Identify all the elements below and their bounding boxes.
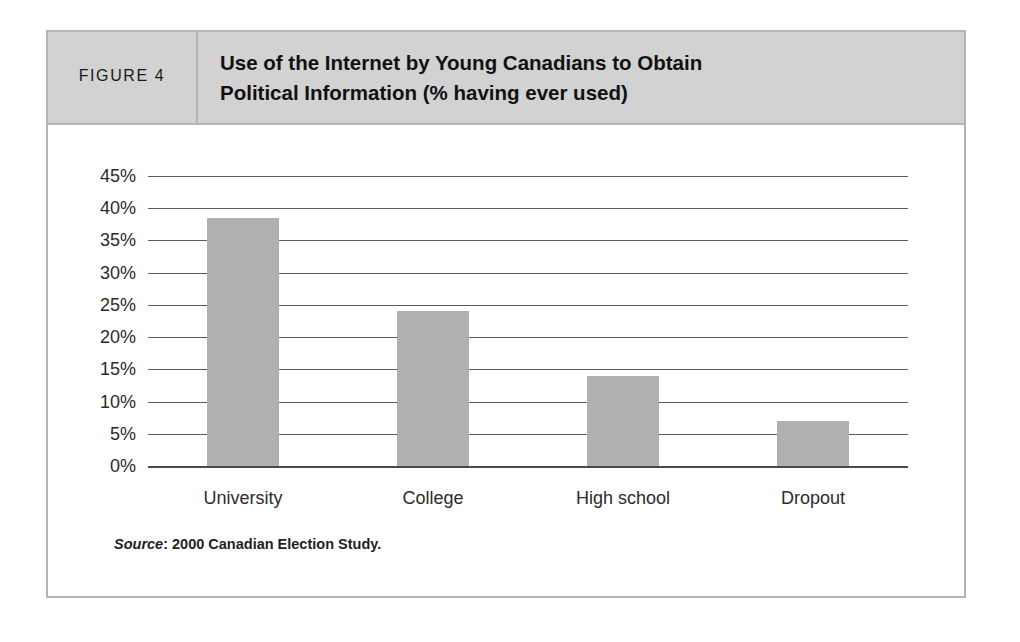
figure-title-line-1: Use of the Internet by Young Canadians t…: [220, 48, 950, 78]
x-tick-label: University: [203, 488, 282, 509]
source-note: Source: 2000 Canadian Election Study.: [114, 536, 381, 552]
figure-header: FIGURE 4 Use of the Internet by Young Ca…: [48, 32, 964, 125]
y-tick-label: 30%: [100, 262, 136, 283]
plot-body: 45%40%35%30%25%20%15%10%5%0% UniversityC…: [48, 125, 964, 596]
y-tick-label: 15%: [100, 359, 136, 380]
source-note-text: : 2000 Canadian Election Study.: [163, 536, 381, 552]
y-tick-label: 40%: [100, 198, 136, 219]
figure-number-cell: FIGURE 4: [48, 32, 198, 123]
y-tick-label: 10%: [100, 391, 136, 412]
figure-title-line-2: Political Information (% having ever use…: [220, 78, 950, 108]
source-note-label: Source: [114, 536, 163, 552]
bar: [587, 376, 660, 466]
bar: [397, 311, 470, 466]
y-tick-label: 35%: [100, 230, 136, 251]
x-tick-label: High school: [576, 488, 670, 509]
x-tick-label: Dropout: [781, 488, 845, 509]
figure-title-cell: Use of the Internet by Young Canadians t…: [198, 32, 964, 123]
y-tick-label: 20%: [100, 327, 136, 348]
figure-number-label: FIGURE 4: [79, 67, 166, 85]
bar: [207, 218, 280, 466]
bars-layer: [148, 176, 908, 466]
bar-chart-plot-area: 45%40%35%30%25%20%15%10%5%0% UniversityC…: [148, 176, 908, 466]
y-tick-label: 45%: [100, 166, 136, 187]
x-tick-label: College: [402, 488, 463, 509]
y-tick-label: 0%: [110, 456, 136, 477]
figure-frame: FIGURE 4 Use of the Internet by Young Ca…: [46, 30, 966, 598]
bar: [777, 421, 850, 466]
y-tick-label: 25%: [100, 294, 136, 315]
y-tick-label: 5%: [110, 423, 136, 444]
axis-baseline: [148, 466, 908, 468]
